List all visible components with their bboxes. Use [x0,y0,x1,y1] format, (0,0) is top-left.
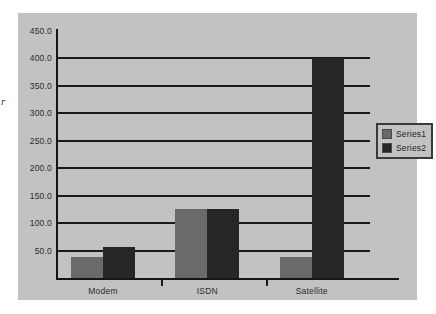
bar-isdn-series2[interactable] [207,209,239,278]
bar-isdn-series1[interactable] [175,209,207,278]
x-axis-category-label: Modem [88,286,117,296]
x-axis-line [56,278,399,280]
y-axis-tick-label: 150.0 [30,191,52,201]
chart-legend[interactable]: Series1 Series2 [376,123,433,159]
x-axis-category-label: ISDN [197,286,218,296]
legend-item-series2[interactable]: Series2 [382,143,426,153]
legend-item-series1[interactable]: Series1 [382,129,426,139]
x-axis-tick [161,280,163,286]
x-axis-category-label: Satellite [296,286,328,296]
y-axis-tick-label: 200.0 [30,163,52,173]
y-axis-tick-label: 450.0 [30,26,52,36]
bar-satellite-series1[interactable] [280,257,312,278]
y-axis-tick-label: 400.0 [30,53,52,63]
y-axis-tick-label: 350.0 [30,81,52,91]
x-axis-tick [266,280,268,286]
legend-label-series2: Series2 [396,143,426,153]
legend-swatch-icon-series2 [382,143,392,153]
y-axis-tick-label: 300.0 [30,108,52,118]
bar-modem-series2[interactable] [103,247,135,278]
bar-modem-series1[interactable] [71,257,103,278]
cropped-axis-label-fragment: r [1,96,5,107]
legend-swatch-icon-series1 [382,129,392,139]
legend-label-series1: Series1 [396,129,426,139]
plot-area: 50.0100.0150.0200.0250.0300.0350.0400.04… [57,31,370,278]
bar-satellite-series2[interactable] [312,58,344,278]
y-axis-tick-label: 250.0 [30,136,52,146]
chart-panel: 50.0100.0150.0200.0250.0300.0350.0400.04… [18,13,417,300]
chart-screenshot: r 50.0100.0150.0200.0250.0300.0350.0400.… [0,0,436,314]
y-axis-tick-label: 100.0 [30,218,52,228]
y-axis-tick-label: 50.0 [35,246,52,256]
